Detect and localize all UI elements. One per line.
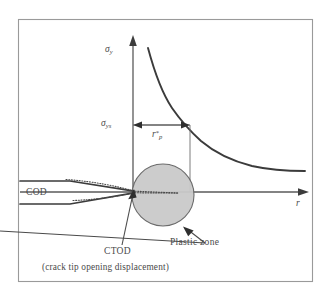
y-axis-label-subscript: y: [110, 48, 113, 55]
cod-label: COD: [26, 188, 47, 198]
yield-stress-label-subscript: ys: [106, 122, 112, 129]
yield-stress-label: σys: [101, 119, 112, 129]
plastic-zone-size-label: r*p: [152, 130, 163, 141]
plastic-zone-circle: [132, 164, 194, 226]
ctod-expansion-label: (crack tip opening displacement): [42, 263, 169, 272]
fracture-mechanics-diagram: [0, 0, 331, 298]
plastic-zone-size-subscript: p: [159, 133, 163, 140]
y-axis-label: σy: [105, 45, 113, 55]
x-axis-label: r: [296, 199, 300, 209]
plastic-zone-label: Plastic zone: [170, 238, 219, 248]
ctod-label: CTOD: [104, 247, 131, 257]
figure-border: [19, 20, 313, 282]
figure-container: σy σys r*p r COD Plastic zone CTOD (crac…: [0, 0, 331, 298]
